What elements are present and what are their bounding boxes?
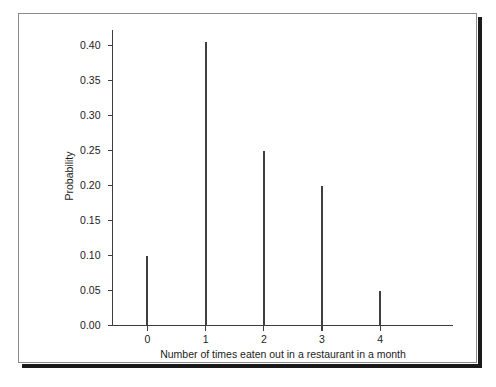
x-tick-label: 2: [261, 333, 267, 345]
x-tick-label: 3: [319, 333, 325, 345]
x-tick-label: 4: [377, 333, 383, 345]
x-tick-label: 0: [145, 333, 151, 345]
x-tick-label: 1: [203, 333, 209, 345]
y-tick-label: 0.40: [80, 39, 101, 51]
y-tick-label: 0.10: [80, 249, 101, 261]
y-tick-label: 0.00: [80, 319, 101, 331]
spike-plot: Probability 0.000.050.100.150.200.250.30…: [0, 0, 496, 387]
x-axis-ticks: 01234: [145, 326, 384, 345]
data-spikes: [147, 42, 380, 325]
y-axis-title: Probability: [63, 151, 75, 201]
y-axis-ticks: 0.000.050.100.150.200.250.300.350.40: [80, 39, 112, 331]
y-tick-label: 0.15: [80, 214, 101, 226]
y-tick-label: 0.25: [80, 144, 101, 156]
y-tick-label: 0.20: [80, 179, 101, 191]
y-tick-label: 0.05: [80, 284, 101, 296]
y-tick-label: 0.35: [80, 74, 101, 86]
probability-distribution-chart: Probability 0.000.050.100.150.200.250.30…: [0, 0, 496, 387]
x-axis-title: Number of times eaten out in a restauran…: [160, 348, 406, 360]
y-tick-label: 0.30: [80, 109, 101, 121]
